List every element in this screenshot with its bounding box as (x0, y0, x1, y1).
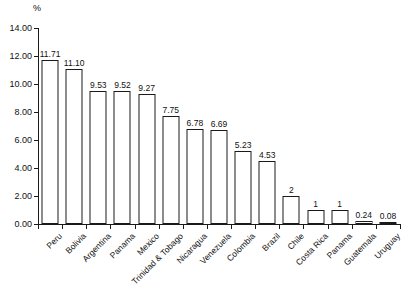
bar-value-label: 6.78 (187, 119, 204, 128)
bar[interactable]: 11.10 (66, 69, 83, 224)
x-tick-mark (135, 224, 136, 229)
bar[interactable]: 6.69 (210, 130, 227, 224)
x-axis-line (38, 224, 400, 225)
y-tick-label: 4.00 (14, 164, 32, 173)
bar-slot: 5.23 (231, 28, 255, 224)
bar-value-label: 9.52 (114, 81, 131, 90)
bar-slot: 9.27 (135, 28, 159, 224)
bar[interactable]: 1 (307, 210, 324, 224)
bar-slot: 11.71 (38, 28, 62, 224)
x-tick-mark (279, 224, 280, 229)
x-tick-label: Peru (45, 231, 65, 251)
x-tick-mark (376, 224, 377, 229)
bar-value-label: 11.10 (64, 59, 85, 68)
x-tick-mark (62, 224, 63, 229)
x-tick-label: Brazil (259, 231, 281, 253)
y-tick-label: 10.00 (9, 80, 32, 89)
bar[interactable]: 1 (331, 210, 348, 224)
bar-value-label: 2 (289, 186, 294, 195)
bar-slot: 1 (328, 28, 352, 224)
bar[interactable]: 7.75 (162, 116, 179, 225)
bar-value-label: 0.24 (356, 211, 373, 220)
bar-value-label: 0.08 (380, 212, 397, 221)
bar-value-label: 7.75 (162, 106, 179, 115)
x-tick-label: Chile (285, 231, 306, 252)
bar[interactable]: 5.23 (235, 151, 252, 224)
bar-slot: 11.10 (62, 28, 86, 224)
bar[interactable]: 4.53 (259, 161, 276, 224)
bar-chart: % 0.002.004.006.008.0010.0012.0014.00 11… (0, 0, 406, 291)
bar[interactable]: 6.78 (186, 129, 203, 224)
bar[interactable]: 0.24 (355, 221, 372, 224)
y-axis-unit-label: % (33, 3, 41, 13)
bar-value-label: 1 (337, 200, 342, 209)
x-tick-mark (38, 224, 39, 229)
bar-slot: 1 (303, 28, 327, 224)
bar-slot: 0.24 (352, 28, 376, 224)
bar-slot: 0.08 (376, 28, 400, 224)
bar-value-label: 11.71 (40, 50, 61, 59)
bar-slot: 6.78 (183, 28, 207, 224)
bar[interactable]: 2 (283, 196, 300, 224)
bar-slot: 2 (279, 28, 303, 224)
bar[interactable]: 9.27 (138, 94, 155, 224)
x-tick-mark (207, 224, 208, 229)
x-tick-mark (231, 224, 232, 229)
bar-slot: 9.52 (110, 28, 134, 224)
bar[interactable]: 0.08 (379, 222, 396, 224)
x-tick-mark (328, 224, 329, 229)
x-tick-mark (110, 224, 111, 229)
bar-value-label: 9.27 (138, 84, 155, 93)
bar-value-label: 6.69 (211, 120, 228, 129)
x-tick-mark (303, 224, 304, 229)
bar-value-label: 4.53 (259, 151, 276, 160)
plot-area: 0.002.004.006.008.0010.0012.0014.00 11.7… (38, 28, 400, 224)
x-tick-mark (86, 224, 87, 229)
y-tick-label: 6.00 (14, 136, 32, 145)
x-tick-mark (255, 224, 256, 229)
x-tick-mark (352, 224, 353, 229)
bar-value-label: 1 (313, 200, 318, 209)
bar[interactable]: 9.53 (90, 91, 107, 224)
y-tick-label: 2.00 (14, 192, 32, 201)
x-tick-mark (159, 224, 160, 229)
bar-value-label: 9.53 (90, 81, 107, 90)
bar-slot: 4.53 (255, 28, 279, 224)
bar[interactable]: 9.52 (114, 91, 131, 224)
y-tick-label: 12.00 (9, 52, 32, 61)
y-tick-label: 14.00 (9, 24, 32, 33)
y-tick-label: 0.00 (14, 220, 32, 229)
x-tick-mark (400, 224, 401, 229)
bar-slot: 6.69 (207, 28, 231, 224)
y-tick-label: 8.00 (14, 108, 32, 117)
bar-slot: 7.75 (159, 28, 183, 224)
bar-slot: 9.53 (86, 28, 110, 224)
x-tick-label: Panama (107, 231, 136, 260)
x-tick-mark (183, 224, 184, 229)
bar-value-label: 5.23 (235, 141, 252, 150)
bar[interactable]: 11.71 (42, 60, 59, 224)
